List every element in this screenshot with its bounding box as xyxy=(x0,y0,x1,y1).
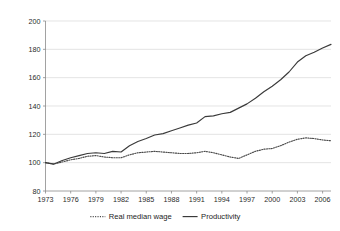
x-tick-label: 1997 xyxy=(239,195,255,204)
y-tick-label: 160 xyxy=(29,73,41,82)
x-tick-label: 1994 xyxy=(214,195,230,204)
y-tick-label: 120 xyxy=(29,130,41,139)
y-tick-label: 140 xyxy=(29,102,41,111)
x-tick-label: 1979 xyxy=(88,195,104,204)
x-tick-label: 2003 xyxy=(289,195,305,204)
y-axis-ticks: 20018016014012010080 xyxy=(29,17,46,196)
x-tick-label: 1985 xyxy=(138,195,154,204)
gridlines xyxy=(46,21,332,163)
x-tick-label: 1982 xyxy=(113,195,129,204)
chart-legend: Real median wageProductivity xyxy=(90,212,240,221)
line-chart: 20018016014012010080 1973197619791982198… xyxy=(0,0,340,231)
x-tick-label: 2006 xyxy=(315,195,331,204)
chart-canvas: 20018016014012010080 1973197619791982198… xyxy=(0,0,340,231)
data-series-layer xyxy=(46,44,332,164)
y-tick-label: 180 xyxy=(29,45,41,54)
x-tick-label: 1973 xyxy=(38,195,54,204)
y-tick-label: 100 xyxy=(29,158,41,167)
legend-label: Real median wage xyxy=(109,212,172,221)
legend-label: Productivity xyxy=(201,212,240,221)
x-tick-label: 1988 xyxy=(163,195,179,204)
x-tick-label: 1991 xyxy=(189,195,205,204)
series-line-real-median-wage xyxy=(46,138,332,164)
x-axis-ticks: 1973197619791982198519881991199419972000… xyxy=(38,191,331,204)
y-tick-label: 200 xyxy=(29,17,41,26)
x-tick-label: 2000 xyxy=(264,195,280,204)
series-line-productivity xyxy=(46,44,332,164)
x-tick-label: 1976 xyxy=(63,195,79,204)
